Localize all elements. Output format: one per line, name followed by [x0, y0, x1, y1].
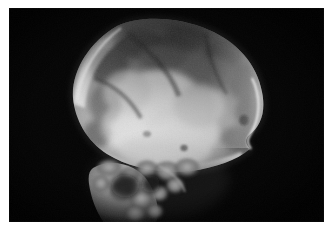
radiograph-image [9, 8, 324, 222]
radiograph-film-plate [9, 8, 324, 222]
film-grain-overlay [9, 8, 324, 222]
image-caption: Lateral skull radiograph showing the cal… [0, 0, 1, 1]
screenshot-root: Lateral skull radiograph showing the cal… [0, 0, 330, 232]
